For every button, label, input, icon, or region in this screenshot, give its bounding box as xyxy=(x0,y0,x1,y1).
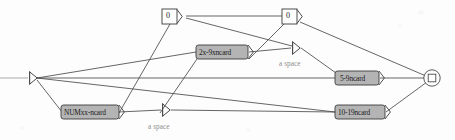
edge-marker-lower xyxy=(163,103,171,116)
diagram-graphics xyxy=(0,0,455,140)
node-zero-left[interactable] xyxy=(162,9,182,24)
node-2x-9xncard[interactable] xyxy=(196,45,253,59)
scan-artifact xyxy=(246,128,251,132)
edge-zero-right-to-2x9x xyxy=(249,22,286,59)
node-10-19ncard[interactable] xyxy=(335,105,390,119)
node-NUMxx-ncard[interactable] xyxy=(61,105,124,119)
start-terminal xyxy=(30,71,38,84)
edge-marker-upper xyxy=(293,41,301,54)
node-zero-right[interactable] xyxy=(282,9,302,24)
edge-space-upper-to-5-9 xyxy=(301,48,336,73)
edge-start-to-2x9x xyxy=(37,52,196,78)
end-terminal xyxy=(424,70,440,86)
edge-zero-right-to-end xyxy=(300,22,426,76)
edge-2x9x-to-space-upper xyxy=(249,48,291,52)
edge-layer xyxy=(0,16,427,113)
edge-numxx-to-zero-left xyxy=(119,24,170,113)
edge-2x9x-down-left xyxy=(160,59,197,113)
annotation-a-space-lower: a space xyxy=(148,123,170,131)
scan-artifact xyxy=(20,126,25,130)
scan-artifact xyxy=(418,10,424,15)
edge-numxx-to-space xyxy=(119,110,161,112)
diagram-canvas: 0 0 2x-9xncard NUMxx-ncard 5-9ncard 10-1… xyxy=(0,0,455,140)
edge-space-lower-out xyxy=(171,110,335,112)
annotation-a-space-upper: a space xyxy=(279,60,301,68)
edge-start-to-numxx xyxy=(37,80,62,112)
node-5-9ncard[interactable] xyxy=(335,71,384,85)
edge-10-19-to-end xyxy=(386,82,427,112)
scan-artifact xyxy=(398,24,402,28)
